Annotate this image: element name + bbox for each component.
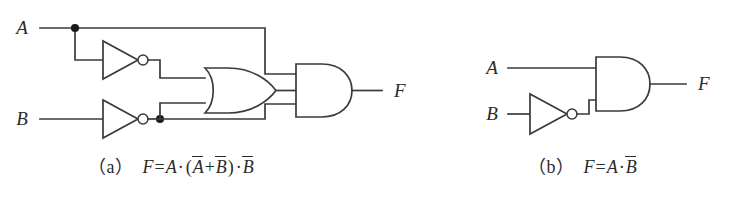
circuit-a-caption-formula: F=A·(A+B)·B xyxy=(143,156,254,178)
wire-bbar-to-or xyxy=(160,103,205,119)
circuit-b-not-gate-bubble xyxy=(567,109,577,119)
circuit-b-formula-lhs: F xyxy=(584,157,595,177)
circuit-a-caption-tag: （a） xyxy=(88,152,134,178)
not-gate-a-body xyxy=(103,41,138,79)
circuit-b-caption-tag: （b） xyxy=(528,152,575,178)
caption-row: （a） F=A·(A+B)·B （b） F=A·B xyxy=(0,152,732,192)
circuit-b-formula-terms: A·B xyxy=(607,157,637,177)
circuit-a-caption: （a） F=A·(A+B)·B xyxy=(88,152,254,178)
term-overbar: B xyxy=(216,156,227,178)
term-literal: A xyxy=(166,157,177,177)
and-gate-body xyxy=(296,64,352,117)
term-literal: A xyxy=(607,157,618,177)
term-operator: + xyxy=(204,157,216,177)
term-overbar: B xyxy=(626,156,637,178)
term-operator: · xyxy=(177,157,185,177)
circuit-a-formula-equals: = xyxy=(154,157,166,177)
not-gate-b-bubble xyxy=(138,114,148,124)
not-gate-b-body xyxy=(103,100,138,138)
circuit-b-input-a-label: A xyxy=(484,57,498,78)
logic-circuit-figure: A B F A B F （a） xyxy=(0,0,732,198)
wire-abar-to-or xyxy=(148,60,205,78)
circuit-b-output-f-label: F xyxy=(697,73,710,94)
junction-a-fanout xyxy=(71,24,79,32)
wire-a-input xyxy=(40,28,296,74)
term-overbar: A xyxy=(193,156,204,178)
circuit-a-group: A B F xyxy=(14,17,406,138)
circuit-a-formula-terms: A·(A+B)·B xyxy=(166,157,254,177)
term-operator: ) xyxy=(227,157,235,177)
term-operator: · xyxy=(235,157,243,177)
not-gate-a-bubble xyxy=(138,55,148,65)
circuit-b-input-b-label: B xyxy=(486,103,498,124)
circuit-a-input-b-label: B xyxy=(16,108,28,129)
circuit-b-and-gate-body xyxy=(596,57,650,111)
circuit-b-caption-formula: F=A·B xyxy=(584,156,637,178)
circuit-a-input-a-label: A xyxy=(14,17,28,38)
circuit-b-caption: （b） F=A·B xyxy=(528,152,637,178)
term-operator: · xyxy=(618,157,626,177)
circuit-b-formula-equals: = xyxy=(595,157,607,177)
circuit-a-output-f-label: F xyxy=(393,80,406,101)
circuit-a-formula-lhs: F xyxy=(143,157,154,177)
circuit-b-not-gate-body xyxy=(530,94,567,134)
circuit-b-group: A B F xyxy=(484,57,710,134)
term-operator: ( xyxy=(185,157,193,177)
wire-a-branch-to-not xyxy=(75,28,103,60)
wire-b-circuit-bbar-to-and xyxy=(577,100,596,114)
term-overbar: B xyxy=(243,156,254,178)
